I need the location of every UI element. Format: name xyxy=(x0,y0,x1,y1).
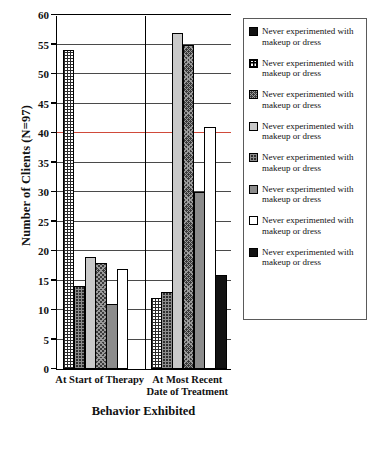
y-tick-label-30: 30 xyxy=(38,186,49,198)
y-tick-label-55: 55 xyxy=(38,39,49,51)
legend-label-3: Never experimented with makeup or dress xyxy=(262,89,362,110)
y-tick-60 xyxy=(51,14,57,15)
bar-g2-s2 xyxy=(161,292,172,369)
y-tick-label-45: 45 xyxy=(38,98,49,110)
bar-g2-s6 xyxy=(204,127,215,369)
legend-item-1[interactable]: Never experimented with makeup or dress xyxy=(249,26,362,47)
plot-area: 051015202530354045505560 xyxy=(56,16,231,370)
y-tick-label-15: 15 xyxy=(38,275,49,287)
y-axis-title: Number of Clients (N=97) xyxy=(19,56,34,296)
bar-g1-s2 xyxy=(74,286,85,369)
bar-g2-s5 xyxy=(194,192,205,369)
chart-root: Number of Clients (N=97) 051015202530354… xyxy=(0,0,374,450)
legend-item-6[interactable]: Never experimented with makeup or dress xyxy=(249,184,362,205)
legend-item-3[interactable]: Never experimented with makeup or dress xyxy=(249,89,362,110)
legend-swatch-framed-cross-icon xyxy=(249,59,258,68)
bar-g2-s7 xyxy=(215,275,226,369)
y-tick-label-10: 10 xyxy=(38,304,49,316)
legend-item-2[interactable]: Never experimented with makeup or dress xyxy=(249,58,362,79)
legend-swatch-dark-cross-check-icon xyxy=(249,90,258,99)
legend: Never experimented with makeup or dressN… xyxy=(243,18,367,320)
bar-g2-s3 xyxy=(172,33,183,369)
y-tick-label-5: 5 xyxy=(44,334,50,346)
y-tick-label-35: 35 xyxy=(38,157,49,169)
legend-label-6: Never experimented with makeup or dress xyxy=(262,184,362,205)
legend-item-8[interactable]: Never experimented with makeup or dress xyxy=(249,247,362,268)
x-axis-label-2-line-1: At Most Recent xyxy=(134,374,242,386)
bar-g1-s4 xyxy=(95,263,106,369)
y-tick-label-50: 50 xyxy=(38,68,49,80)
y-tick-label-25: 25 xyxy=(38,216,49,228)
y-tick-label-20: 20 xyxy=(38,245,49,257)
bar-g1-s1 xyxy=(63,50,74,369)
bar-g1-s5 xyxy=(106,304,117,369)
x-axis-title: Behavior Exhibited xyxy=(56,404,231,419)
legend-item-7[interactable]: Never experimented with makeup or dress xyxy=(249,215,362,236)
bars-layer xyxy=(57,16,231,369)
x-axis-label-2: At Most RecentDate of Treatment xyxy=(134,374,242,397)
x-axis-label-2-line-2: Date of Treatment xyxy=(134,386,242,398)
bar-g2-s1 xyxy=(151,298,162,369)
legend-swatch-solid-black-icon xyxy=(249,248,258,257)
gridline-60 xyxy=(57,14,231,15)
legend-item-5[interactable]: Never experimented with makeup or dress xyxy=(249,152,362,173)
legend-item-4[interactable]: Never experimented with makeup or dress xyxy=(249,121,362,142)
bar-g2-s4 xyxy=(183,45,194,370)
legend-label-1: Never experimented with makeup or dress xyxy=(262,26,362,47)
legend-swatch-light-gray-icon xyxy=(249,122,258,131)
legend-label-4: Never experimented with makeup or dress xyxy=(262,121,362,142)
y-tick-label-60: 60 xyxy=(38,9,49,21)
bar-g1-s6 xyxy=(117,269,128,369)
legend-swatch-medium-gray-icon xyxy=(249,185,258,194)
legend-label-5: Never experimented with makeup or dress xyxy=(262,152,362,173)
legend-swatch-dark-checkered-icon xyxy=(249,153,258,162)
legend-swatch-white-icon xyxy=(249,216,258,225)
legend-label-2: Never experimented with makeup or dress xyxy=(262,58,362,79)
legend-swatch-solid-black-icon xyxy=(249,27,258,36)
legend-label-8: Never experimented with makeup or dress xyxy=(262,247,362,268)
legend-label-7: Never experimented with makeup or dress xyxy=(262,215,362,236)
y-tick-label-40: 40 xyxy=(38,127,49,139)
bar-g1-s3 xyxy=(85,257,96,369)
